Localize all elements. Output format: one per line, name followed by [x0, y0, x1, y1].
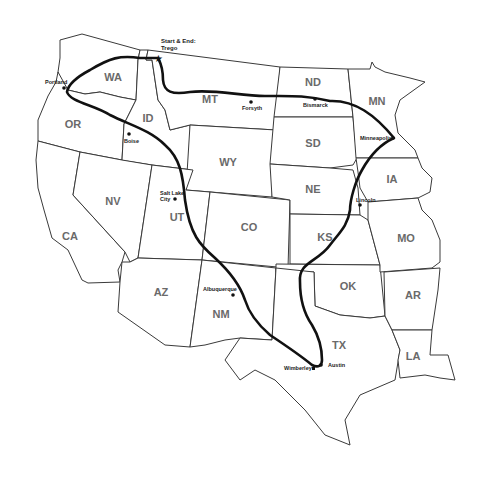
city-label-portland: Portland — [45, 79, 67, 85]
city-dot-boise — [127, 132, 131, 136]
state-label-ar: AR — [405, 289, 421, 301]
state-label-or: OR — [65, 118, 82, 130]
state-label-tx: TX — [332, 339, 347, 351]
state-label-nd: ND — [305, 76, 321, 88]
state-la — [392, 330, 455, 380]
city-dot-forsyth — [249, 100, 253, 104]
state-label-mo: MO — [397, 232, 415, 244]
city-label-forsyth: Forsyth — [242, 105, 263, 111]
city-dot-portland — [62, 86, 66, 90]
city-label-lincoln: Lincoln — [356, 197, 376, 203]
state-label-ut: UT — [170, 211, 185, 223]
state-label-ne: NE — [305, 183, 320, 195]
state-label-ca: CA — [62, 230, 78, 242]
city-label-albuquerque: Albuquerque — [203, 286, 237, 292]
state-label-mt: MT — [202, 93, 218, 105]
start-end-label-line1: Start & End: — [161, 38, 196, 44]
state-label-co: CO — [241, 221, 258, 233]
city-dot-lincoln — [358, 203, 362, 207]
state-label-wa: WA — [104, 71, 122, 83]
city-dot-salt-lake-city — [173, 197, 177, 201]
city-dot-albuquerque — [231, 293, 235, 297]
city-dot-bismarck — [313, 97, 317, 101]
state-label-nm: NM — [212, 308, 229, 320]
city-dot-wimberley — [312, 367, 315, 370]
state-label-la: LA — [406, 350, 421, 362]
city-dot-austin — [319, 363, 323, 367]
state-label-nv: NV — [105, 195, 121, 207]
city-label-wimberley: Wimberley — [284, 365, 313, 371]
city-label-salt-lake-city-line2: City — [160, 196, 171, 202]
start-end-label-line2: Trego — [161, 45, 178, 51]
state-label-ok: OK — [340, 280, 357, 292]
state-label-az: AZ — [154, 286, 169, 298]
star-icon: ★ — [154, 53, 163, 64]
state-nd — [274, 67, 353, 117]
city-label-austin: Austin — [328, 362, 346, 368]
city-label-bismarck: Bismarck — [303, 102, 329, 108]
state-label-ia: IA — [387, 173, 398, 185]
state-az — [118, 258, 202, 347]
us-map: WA OR CA ID NV MT WY UT AZ CO NM ND SD N… — [0, 0, 489, 479]
city-label-minneapolis: Minneapolis — [360, 135, 392, 141]
state-nm — [190, 260, 276, 347]
city-label-boise: Boise — [124, 138, 139, 144]
state-label-wy: WY — [219, 156, 237, 168]
state-label-sd: SD — [305, 137, 320, 149]
state-label-mn: MN — [368, 95, 385, 107]
state-label-ks: KS — [317, 231, 332, 243]
state-label-id: ID — [143, 112, 154, 124]
